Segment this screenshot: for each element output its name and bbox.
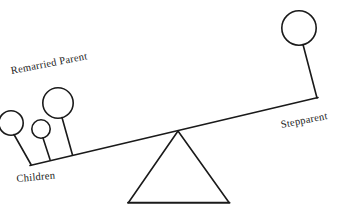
person-figure-large-icon bbox=[282, 11, 316, 45]
left-figures-group bbox=[0, 88, 73, 165]
stepparent-figure-group bbox=[282, 11, 317, 98]
triangle-fulcrum-icon bbox=[128, 131, 230, 203]
person-figure-small-icon bbox=[32, 120, 50, 160]
diagram-canvas: Remarried Parent Children Stepparent bbox=[0, 0, 342, 208]
person-figure-medium-icon bbox=[0, 111, 31, 165]
figure-stick-line bbox=[303, 45, 317, 99]
